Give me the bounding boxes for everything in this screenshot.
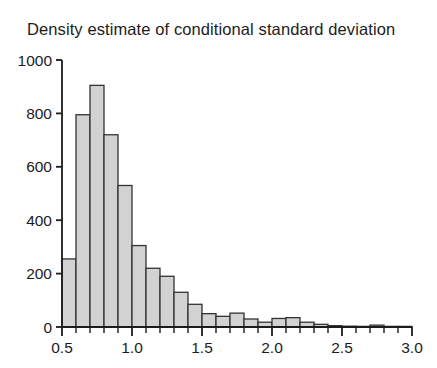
histogram-bar: [104, 135, 118, 327]
histogram-bar: [174, 292, 188, 327]
histogram-bar: [62, 259, 76, 327]
histogram-bar: [188, 304, 202, 327]
x-axis-tick-label: 0.5: [51, 339, 73, 356]
histogram-bar: [216, 316, 230, 327]
y-axis-tick-label: 800: [26, 105, 52, 122]
y-axis-tick-label: 200: [26, 265, 52, 282]
bars-group: [62, 85, 412, 327]
histogram-bar: [202, 314, 216, 327]
y-axis-tick-label: 1000: [18, 52, 53, 69]
x-axis-tick-label: 1.5: [191, 339, 213, 356]
x-axis-tick-label: 3.0: [401, 339, 423, 356]
histogram-bar: [160, 276, 174, 327]
histogram-bar: [90, 85, 104, 327]
histogram-plot: 020040060080010000.51.01.52.02.53.0: [0, 0, 437, 368]
y-axis-tick-label: 0: [43, 319, 52, 336]
x-axis-tick-label: 2.0: [261, 339, 283, 356]
histogram-bar: [286, 318, 300, 327]
x-axis-tick-label: 2.5: [331, 339, 353, 356]
histogram-bar: [76, 115, 90, 327]
histogram-bar: [132, 246, 146, 327]
y-axis-tick-label: 600: [26, 158, 52, 175]
histogram-bar: [272, 318, 286, 327]
histogram-bar: [146, 268, 160, 327]
histogram-bar: [118, 185, 132, 327]
y-axis-tick-label: 400: [26, 212, 52, 229]
histogram-bar: [244, 319, 258, 327]
chart-page: Density estimate of conditional standard…: [0, 0, 437, 368]
histogram-bar: [230, 313, 244, 327]
x-axis-tick-label: 1.0: [121, 339, 143, 356]
